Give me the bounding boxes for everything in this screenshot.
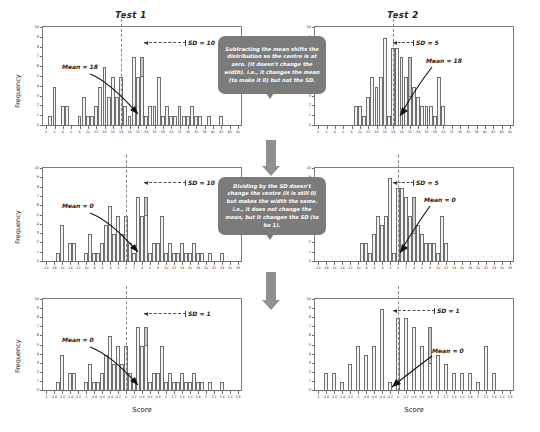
x-tick-mark [110,262,111,265]
sd-annotation-r2c1: SD = 10 [144,178,215,187]
histogram-bar [492,373,496,391]
histogram-bar [348,364,352,391]
x-tick-mark [158,262,159,265]
x-tick-label: 0.6 [419,395,424,399]
x-axis-r2c2: -20-18-16-14-12-10-8-6-4-202468101214161… [314,262,514,276]
x-tick-label: 40 [211,130,215,134]
x-tick-mark [382,262,383,265]
x-tick-mark [188,126,189,129]
y-tick-mark [312,168,314,169]
y-tick-mark [40,27,42,28]
y-axis-r3c2: 012345678910 [296,298,314,391]
x-tick-label: -20 [315,266,320,270]
x-tick-mark [393,126,394,129]
x-tick-label: 2 [405,266,407,270]
x-tick-mark [335,126,336,129]
x-tick-label: -4 [108,266,111,270]
x-tick-mark [486,262,487,265]
x-tick-label: 2 [133,266,135,270]
x-tick-label: -0.2 [115,395,121,399]
sd-label: SD = 5 [416,179,439,186]
y-tick-mark [40,56,42,57]
x-tick-mark [196,126,197,129]
sd-cap-right [434,308,435,314]
y-axis-title-r3: Frequency [14,339,22,373]
sd-arrow-left [393,309,397,313]
x-tick-label: -2 [388,266,391,270]
sd-label: SD = 10 [188,39,215,46]
x-tick-label: -12 [75,266,80,270]
histogram-bar [380,309,384,391]
x-tick-mark [454,391,455,394]
x-tick-label: 8 [157,266,159,270]
x-tick-mark [406,262,407,265]
x-tick-mark [70,262,71,265]
x-tick-mark [198,262,199,265]
x-tick-mark [422,262,423,265]
y-tick-mark [40,335,42,336]
statistics-figure: Test 1 Test 2 012345678910 Frequency 024… [0,0,540,432]
bubble-tail-2 [266,234,274,240]
x-tick-mark [468,126,469,129]
y-tick-mark [312,105,314,106]
x-tick-mark [174,262,175,265]
x-tick-mark [510,391,511,394]
y-tick-label: 5 [37,213,39,217]
sd-label: SD = 1 [188,310,211,317]
x-tick-label: -20 [43,266,48,270]
x-tick-label: -2 [116,266,119,270]
x-tick-label: 40 [483,130,487,134]
y-tick-mark [40,66,42,67]
x-tick-label: 38 [474,130,478,134]
x-tick-label: 16 [188,266,192,270]
x-axis-r1c2: 0246810121416182022242628303234363840424… [314,126,514,140]
x-tick-mark [134,391,135,394]
histogram-bar [324,373,328,391]
x-tick-label: 2.4 [219,395,224,399]
x-tick-label: -0.8 [363,395,369,399]
x-tick-mark [205,126,206,129]
x-tick-label: 42 [491,130,495,134]
x-tick-mark [102,262,103,265]
y-tick-label: 6 [37,64,39,68]
x-tick-label: -10 [355,266,360,270]
x-axis-title-r3c1: Score [42,406,242,414]
x-tick-mark [318,262,319,265]
x-tick-label: 20 [399,130,403,134]
y-tick-label: 0 [37,259,39,263]
x-tick-label: 0 [317,130,319,134]
x-tick-mark [352,126,353,129]
x-tick-label: -2 [44,395,47,399]
x-tick-label: -8 [364,266,367,270]
x-tick-mark [113,126,114,129]
x-tick-label: 18 [119,130,123,134]
x-tick-mark [182,391,183,394]
x-tick-mark [214,391,215,394]
x-tick-label: 14 [452,266,456,270]
x-tick-label: 1.8 [195,395,200,399]
flow-arrow-1 [262,140,280,178]
y-tick-label: 0 [37,388,39,392]
x-tick-label: 36 [194,130,198,134]
x-tick-mark [358,391,359,394]
y-tick-label: 1 [309,113,311,117]
x-tick-mark [510,262,511,265]
x-tick-label: -0.4 [107,395,113,399]
mean-label-r2c1: Mean = 0 [62,202,94,209]
x-tick-label: -1.4 [67,395,73,399]
x-tick-mark [334,391,335,394]
x-tick-label: -6 [372,266,375,270]
y-tick-label: 4 [37,352,39,356]
y-tick-label: 9 [309,306,311,310]
x-tick-label: 24 [220,266,224,270]
x-tick-mark [134,262,135,265]
x-tick-label: 10 [436,266,440,270]
x-tick-mark [126,391,127,394]
x-tick-mark [350,391,351,394]
x-tick-label: 6 [342,130,344,134]
y-tick-mark [40,233,42,234]
mean-arrow-r3c2 [388,353,434,391]
x-tick-label: 12 [172,266,176,270]
x-tick-label: 2.8 [235,395,240,399]
x-tick-mark [118,391,119,394]
